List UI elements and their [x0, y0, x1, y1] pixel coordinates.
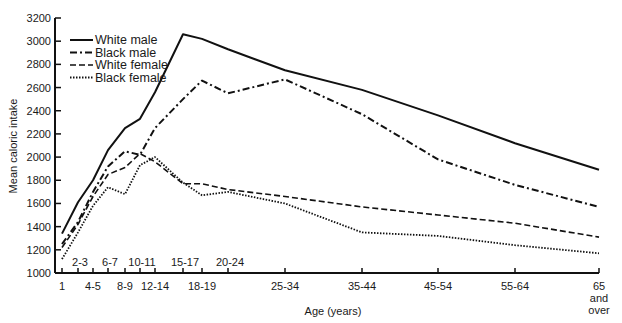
series-line-black-male: [62, 79, 599, 244]
legend-label: Black female: [95, 71, 167, 85]
y-axis-title: Mean caloric intake: [7, 99, 19, 194]
y-tick-label: 2200: [27, 128, 51, 140]
x-tick-label: 20-24: [216, 256, 244, 268]
x-tick-label: 65: [593, 280, 605, 292]
x-tick-label: 12-14: [141, 280, 169, 292]
y-tick-label: 2000: [27, 151, 51, 163]
x-tick-label: 35-44: [348, 280, 376, 292]
y-tick-label: 1000: [27, 267, 51, 279]
series-line-black-female: [62, 157, 599, 259]
legend: White maleBlack maleWhite femaleBlack fe…: [70, 33, 168, 85]
y-tick-label: 3200: [27, 12, 51, 24]
y-tick-label: 1400: [27, 221, 51, 233]
x-tick-label: 25-34: [271, 280, 299, 292]
y-tick-label: 3000: [27, 35, 51, 47]
x-tick-label: 15-17: [171, 256, 199, 268]
series-line-white-female: [62, 154, 599, 248]
y-tick-label: 1800: [27, 174, 51, 186]
x-tick-label: 55-64: [501, 280, 529, 292]
x-tick-label: 18-19: [188, 280, 216, 292]
y-tick-label: 2800: [27, 58, 51, 70]
x-tick-label: 45-54: [424, 280, 452, 292]
y-tick-label: 2600: [27, 82, 51, 94]
x-axis-title: Age (years): [305, 305, 362, 317]
x-tick-label: 6-7: [102, 256, 118, 268]
y-tick-label: 2400: [27, 105, 51, 117]
y-tick-label: 1200: [27, 244, 51, 256]
line-chart: 1000120014001600180020002200240026002800…: [0, 0, 622, 323]
y-tick-label: 1600: [27, 197, 51, 209]
x-tick-label: 1: [59, 280, 65, 292]
x-tick-label: and: [590, 292, 608, 304]
x-tick-label: over: [588, 304, 610, 316]
y-axis: 1000120014001600180020002200240026002800…: [27, 12, 61, 279]
x-tick-label: 10-11: [128, 256, 155, 268]
x-tick-label: 4-5: [85, 280, 101, 292]
x-tick-label: 8-9: [117, 280, 133, 292]
x-tick-label: 2-3: [72, 256, 88, 268]
